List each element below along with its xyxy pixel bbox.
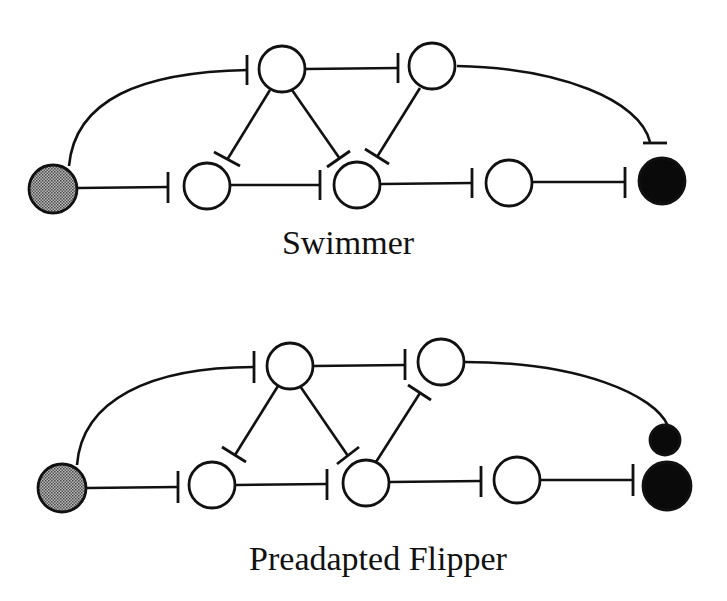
- inhibit-bar: [365, 149, 389, 164]
- top-right-node: [409, 43, 455, 89]
- output-node: [639, 158, 685, 204]
- edge-sensory-to-bottom-1: [78, 187, 168, 188]
- swimmer-panel: [29, 43, 685, 213]
- top-left-node: [267, 343, 313, 389]
- bottom-2-node: [334, 162, 380, 208]
- inhibit-bar: [222, 447, 246, 462]
- output-upper-node: [650, 425, 680, 455]
- sensory-node: [29, 165, 77, 213]
- edge-bottom-2-to-bottom-3: [381, 183, 472, 184]
- network-diagram: [0, 0, 727, 601]
- edge-top-right-to-bottom-2: [377, 88, 420, 157]
- bottom-2-node: [343, 460, 389, 506]
- edge-top-left-to-top-right: [313, 365, 405, 366]
- edge-top-right-to-output: [457, 66, 650, 142]
- bottom-1-node: [184, 163, 230, 209]
- bottom-3-node: [494, 457, 540, 503]
- sensory-node: [38, 464, 86, 512]
- edge-top-left-to-bottom-2: [292, 90, 340, 159]
- edge-top-left-to-top-right: [305, 68, 398, 69]
- inhibit-bar: [408, 385, 431, 400]
- edge-bottom-2-to-top-right: [376, 393, 420, 462]
- edge-top-left-to-bottom-2: [300, 386, 348, 456]
- bottom-1-node: [189, 462, 235, 508]
- edge-bottom-1-to-bottom-2: [236, 484, 327, 485]
- swimmer-caption: Swimmer: [282, 224, 414, 262]
- flipper-caption: Preadapted Flipper: [249, 540, 507, 578]
- edge-top-right-to-output-upper: [465, 362, 668, 426]
- top-right-node: [418, 339, 464, 385]
- edge-top-left-to-bottom-1: [235, 386, 278, 455]
- edge-sensory-to-top-left: [69, 70, 248, 166]
- top-left-node: [259, 46, 305, 92]
- output-lower-node: [643, 462, 691, 510]
- edge-sensory-to-bottom-1: [87, 487, 178, 488]
- edge-bottom-2-to-bottom-3: [390, 481, 481, 482]
- edge-top-left-to-bottom-1: [227, 90, 270, 160]
- inhibit-bar: [214, 152, 240, 166]
- bottom-3-node: [486, 160, 532, 206]
- flipper-panel: [38, 339, 691, 512]
